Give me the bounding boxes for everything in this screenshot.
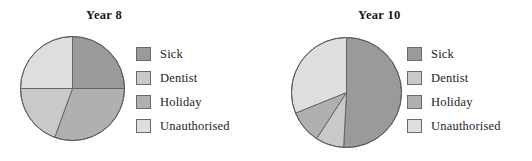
legend-label-holiday: Holiday	[160, 95, 202, 110]
legend-swatch-holiday-icon	[407, 95, 422, 109]
legend-label-unauthorised: Unauthorised	[431, 119, 501, 134]
pie-chart-year-10	[290, 36, 403, 149]
chart-panel-year-8: Year 8 Sick Dentist Holiday Unauthorised	[0, 0, 266, 161]
legend-item-unauthorised[interactable]: Unauthorised	[136, 114, 230, 138]
legend-swatch-dentist-icon	[407, 71, 422, 85]
legend-item-sick[interactable]: Sick	[407, 42, 501, 66]
pie-slice-sick[interactable]	[73, 37, 125, 89]
legend-item-unauthorised[interactable]: Unauthorised	[407, 114, 501, 138]
figure-sheet: Year 8 Sick Dentist Holiday Unauthorised	[0, 0, 532, 161]
legend-label-dentist: Dentist	[431, 71, 469, 86]
legend-item-dentist[interactable]: Dentist	[407, 66, 501, 90]
pie-svg-year-8	[19, 35, 126, 142]
legend-label-dentist: Dentist	[160, 71, 198, 86]
legend-label-sick: Sick	[160, 47, 183, 62]
pie-chart-year-8	[19, 35, 126, 142]
legend-swatch-dentist-icon	[136, 71, 151, 85]
legend-year-8: Sick Dentist Holiday Unauthorised	[136, 42, 230, 138]
chart-panel-year-10: Year 10 Sick Dentist Holiday Unauthorise…	[266, 0, 532, 161]
pie-svg-year-10	[290, 36, 403, 149]
legend-swatch-sick-icon	[407, 47, 422, 61]
pie-slice-sick[interactable]	[344, 37, 402, 147]
legend-swatch-holiday-icon	[136, 95, 151, 109]
legend-item-dentist[interactable]: Dentist	[136, 66, 230, 90]
legend-label-unauthorised: Unauthorised	[160, 119, 230, 134]
legend-swatch-unauthorised-icon	[136, 119, 151, 133]
legend-item-holiday[interactable]: Holiday	[407, 90, 501, 114]
legend-swatch-unauthorised-icon	[407, 119, 422, 133]
legend-label-holiday: Holiday	[431, 95, 473, 110]
legend-swatch-sick-icon	[136, 47, 151, 61]
chart-title-year-8: Year 8	[86, 8, 122, 23]
legend-label-sick: Sick	[431, 47, 454, 62]
chart-title-year-10: Year 10	[358, 8, 401, 23]
legend-year-10: Sick Dentist Holiday Unauthorised	[407, 42, 501, 138]
pie-slice-unauthorised[interactable]	[21, 37, 73, 89]
legend-item-holiday[interactable]: Holiday	[136, 90, 230, 114]
legend-item-sick[interactable]: Sick	[136, 42, 230, 66]
